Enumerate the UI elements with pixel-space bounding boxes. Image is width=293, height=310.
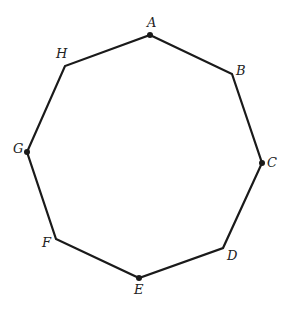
octagon-diagram: ABCDEFGH [0, 0, 293, 310]
vertex-dot-a [147, 32, 153, 38]
vertex-dot-c [259, 160, 265, 166]
vertex-label-b: B [235, 63, 246, 78]
vertex-label-e: E [133, 282, 144, 297]
vertex-dot-g [24, 149, 30, 155]
vertex-label-h: H [55, 46, 68, 61]
octagon-outline [27, 35, 262, 278]
vertex-labels: ABCDEFGH [13, 15, 277, 297]
vertex-label-g: G [13, 141, 23, 156]
vertex-dot-e [136, 275, 142, 281]
vertex-label-c: C [267, 155, 277, 170]
vertex-dots [24, 32, 265, 281]
vertex-label-a: A [146, 15, 156, 30]
vertex-label-f: F [41, 235, 52, 250]
vertex-label-d: D [226, 248, 238, 263]
